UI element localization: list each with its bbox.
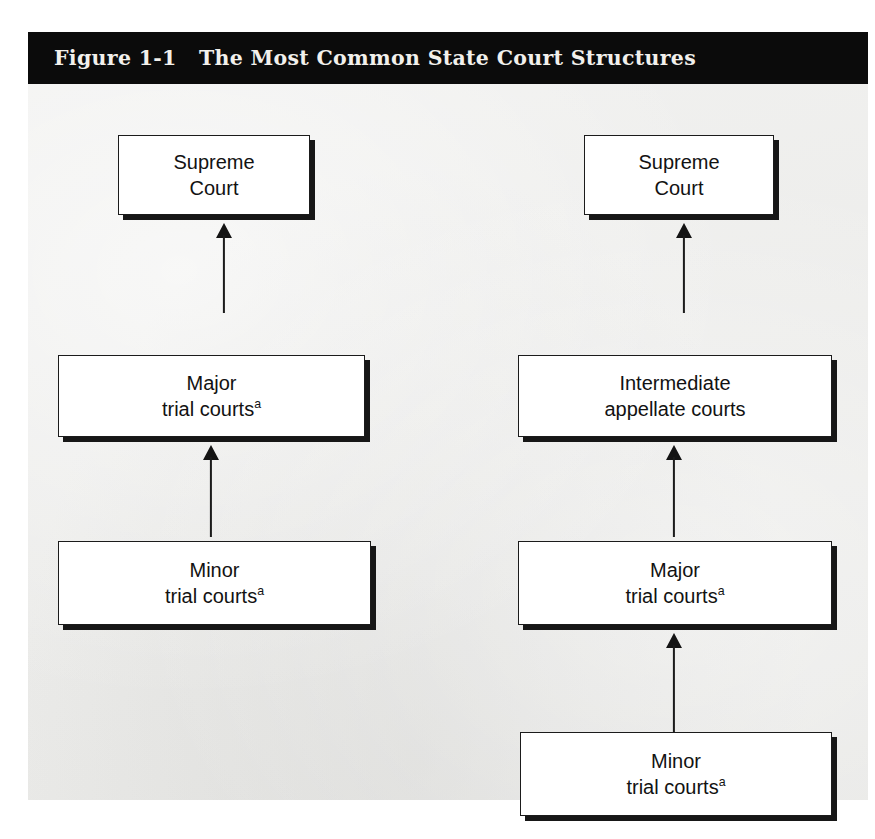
box-left-supreme-court-line2: Court [190,175,239,201]
arrow-left-major-to-supreme [211,223,237,313]
box-left-major-trial-courts-line1: Major [186,370,236,396]
box-right-intermediate-appellate-courts: Intermediate appellate courts [518,355,832,437]
box-right-major-trial-courts: Major trial courtsa [518,541,832,625]
box-right-intermediate-appellate-courts-line2: appellate courts [604,396,745,422]
arrow-right-intermediate-to-supreme [671,223,697,313]
box-right-supreme-court-line1: Supreme [638,149,719,175]
arrow-left-minor-to-major [198,445,224,537]
box-left-supreme-court-line1: Supreme [173,149,254,175]
box-right-minor-trial-courts-line2: trial courtsa [626,774,725,800]
box-left-minor-trial-courts-line1: Minor [189,557,239,583]
box-right-supreme-court-line2: Court [655,175,704,201]
arrow-shaft [673,645,675,733]
court-structure-diagram: Supreme Court Major trial courtsa Minor … [28,84,868,800]
figure-title-bar: Figure 1-1 The Most Common State Court S… [28,32,868,84]
arrow-shaft [673,457,675,537]
box-right-minor-trial-courts: Minor trial courtsa [520,732,832,816]
box-right-minor-trial-courts-line1: Minor [651,748,701,774]
box-right-major-trial-courts-line2: trial courtsa [625,583,724,609]
box-right-supreme-court: Supreme Court [584,135,774,215]
figure-panel: Figure 1-1 The Most Common State Court S… [28,32,868,800]
box-left-supreme-court: Supreme Court [118,135,310,215]
box-right-major-trial-courts-line1: Major [650,557,700,583]
box-left-major-trial-courts: Major trial courtsa [58,355,365,437]
box-left-minor-trial-courts: Minor trial courtsa [58,541,371,625]
box-left-major-trial-courts-line2: trial courtsa [162,396,261,422]
arrow-shaft [223,235,225,313]
box-left-minor-trial-courts-line2: trial courtsa [165,583,264,609]
arrow-right-minor-to-major [661,633,687,733]
box-right-intermediate-appellate-courts-line1: Intermediate [619,370,730,396]
arrow-shaft [683,235,685,313]
arrow-right-major-to-intermediate [661,445,687,537]
figure-title: Figure 1-1 The Most Common State Court S… [54,46,696,70]
arrow-shaft [210,457,212,537]
